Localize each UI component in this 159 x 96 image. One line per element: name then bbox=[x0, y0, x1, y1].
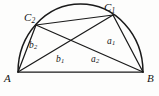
segment-chord-c2-c1 bbox=[36, 15, 113, 25]
side-label-a2: a2 bbox=[91, 55, 99, 65]
segment-a2-c2-b bbox=[36, 25, 143, 72]
segment-a1-c1-b bbox=[113, 15, 143, 72]
semicircle-arc bbox=[18, 4, 143, 72]
vertex-label-a: A bbox=[4, 73, 11, 84]
side-label-a1: a1 bbox=[107, 37, 115, 47]
vertex-label-c1: C1 bbox=[104, 2, 115, 14]
vertex-label-c2: C2 bbox=[24, 12, 35, 24]
side-label-b1: b1 bbox=[56, 55, 64, 65]
vertex-label-b: B bbox=[147, 73, 154, 84]
side-label-b2: b2 bbox=[29, 41, 37, 51]
geometry-figure: A B C1 C2 a1 a2 b1 b2 bbox=[0, 0, 159, 96]
